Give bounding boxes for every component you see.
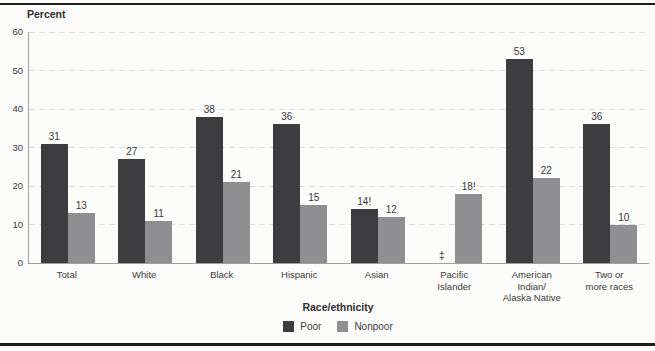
bar-slot-poor-asian: 14! xyxy=(351,196,378,263)
value-label-nonpoor-hispanic: 15 xyxy=(308,192,319,203)
y-tick-label-0: 0 xyxy=(0,257,23,268)
bar-nonpoor-hispanic xyxy=(300,205,327,263)
bar-pair-american-indian-alaska-native: 5322 xyxy=(506,46,560,263)
bar-nonpoor-two-or-more-races xyxy=(610,225,637,264)
legend-label-nonpoor: Nonpoor xyxy=(354,321,392,332)
legend-item-poor: Poor xyxy=(283,321,321,332)
bar-pair-white: 2711 xyxy=(118,146,172,263)
bar-slot-poor-hispanic: 36 xyxy=(273,111,300,263)
value-label-nonpoor-pacific-islander: 18! xyxy=(462,181,476,192)
bottom-rule xyxy=(0,343,655,346)
x-axis-title: Race/ethnicity xyxy=(28,301,648,313)
bar-pair-black: 3821 xyxy=(196,104,250,263)
plot-area: 311327113821361514!12‡18!53223610 xyxy=(28,32,649,264)
top-rule xyxy=(0,3,655,5)
category-label-two-or-more-races: Two ormore races xyxy=(571,269,649,304)
bar-group-white: 2711 xyxy=(107,32,185,263)
value-label-poor-black: 38 xyxy=(204,104,215,115)
bar-group-hispanic: 3615 xyxy=(262,32,340,263)
bar-slot-poor-white: 27 xyxy=(118,146,145,263)
y-tick-label-10: 10 xyxy=(0,219,23,230)
bar-pair-pacific-islander: ‡18! xyxy=(428,181,482,263)
legend-swatch-poor xyxy=(283,321,294,332)
bar-slot-poor-two-or-more-races: 36 xyxy=(583,111,610,263)
bar-slot-poor-american-indian-alaska-native: 53 xyxy=(506,46,533,263)
y-tick-label-30: 30 xyxy=(0,142,23,153)
bar-slot-nonpoor-hispanic: 15 xyxy=(300,192,327,263)
value-label-nonpoor-white: 11 xyxy=(154,208,164,219)
bar-nonpoor-asian xyxy=(378,217,405,263)
bar-pair-asian: 14!12 xyxy=(351,196,405,263)
value-label-nonpoor-two-or-more-races: 10 xyxy=(618,212,629,223)
bar-poor-black xyxy=(196,117,223,263)
bar-slot-nonpoor-white: 11 xyxy=(145,208,172,263)
legend-label-poor: Poor xyxy=(300,321,321,332)
bar-pair-total: 3113 xyxy=(41,131,95,263)
bar-nonpoor-white xyxy=(145,221,172,263)
bar-pair-two-or-more-races: 3610 xyxy=(583,111,637,263)
y-tick-label-20: 20 xyxy=(0,180,23,191)
bar-slot-poor-pacific-islander: ‡ xyxy=(428,250,455,263)
bar-nonpoor-pacific-islander xyxy=(455,194,482,263)
bar-group-asian: 14!12 xyxy=(339,32,417,263)
y-tick-label-50: 50 xyxy=(0,65,23,76)
category-label-total: Total xyxy=(28,269,106,304)
category-label-pacific-islander: PacificIslander xyxy=(416,269,494,304)
value-label-poor-total: 31 xyxy=(49,131,60,142)
value-label-poor-american-indian-alaska-native: 53 xyxy=(514,46,525,57)
bar-group-pacific-islander: ‡18! xyxy=(417,32,495,263)
legend-item-nonpoor: Nonpoor xyxy=(337,321,392,332)
category-label-asian: Asian xyxy=(338,269,416,304)
category-label-hispanic: Hispanic xyxy=(261,269,339,304)
bar-slot-nonpoor-pacific-islander: 18! xyxy=(455,181,482,263)
bar-group-total: 3113 xyxy=(29,32,107,263)
bar-slot-nonpoor-total: 13 xyxy=(68,200,95,263)
y-axis: 0102030405060 xyxy=(0,32,23,263)
y-tick-label-40: 40 xyxy=(0,103,23,114)
value-label-poor-asian: 14! xyxy=(357,196,371,207)
bar-poor-total xyxy=(41,144,68,263)
bar-slot-poor-total: 31 xyxy=(41,131,68,263)
bar-poor-white xyxy=(118,159,145,263)
y-tick-label-60: 60 xyxy=(0,26,23,37)
bar-poor-two-or-more-races xyxy=(583,124,610,263)
bar-poor-hispanic xyxy=(273,124,300,263)
bar-nonpoor-american-indian-alaska-native xyxy=(533,178,560,263)
legend: PoorNonpoor xyxy=(28,321,648,332)
bar-slot-nonpoor-american-indian-alaska-native: 22 xyxy=(533,165,560,263)
bar-slot-nonpoor-black: 21 xyxy=(223,169,250,263)
category-label-american-indian-alaska-native: AmericanIndian/Alaska Native xyxy=(493,269,571,304)
x-axis-labels: TotalWhiteBlackHispanicAsianPacificIslan… xyxy=(28,269,648,304)
bar-poor-american-indian-alaska-native xyxy=(506,59,533,263)
value-label-poor-white: 27 xyxy=(126,146,137,157)
value-label-poor-pacific-islander: ‡ xyxy=(439,250,445,261)
bar-nonpoor-total xyxy=(68,213,95,263)
bar-poor-asian xyxy=(351,209,378,263)
value-label-nonpoor-american-indian-alaska-native: 22 xyxy=(541,165,552,176)
value-label-poor-two-or-more-races: 36 xyxy=(591,111,602,122)
bar-slot-poor-black: 38 xyxy=(196,104,223,263)
value-label-nonpoor-asian: 12 xyxy=(386,204,397,215)
category-label-black: Black xyxy=(183,269,261,304)
bar-pair-hispanic: 3615 xyxy=(273,111,327,263)
bar-group-american-indian-alaska-native: 5322 xyxy=(494,32,572,263)
value-label-nonpoor-black: 21 xyxy=(231,169,242,180)
figure-container: Percent 0102030405060 311327113821361514… xyxy=(0,0,655,351)
bar-groups: 311327113821361514!12‡18!53223610 xyxy=(29,32,649,263)
y-axis-title: Percent xyxy=(27,8,66,20)
bar-group-two-or-more-races: 3610 xyxy=(572,32,650,263)
category-label-white: White xyxy=(106,269,184,304)
value-label-nonpoor-total: 13 xyxy=(76,200,87,211)
value-label-poor-hispanic: 36 xyxy=(281,111,292,122)
bar-slot-nonpoor-two-or-more-races: 10 xyxy=(610,212,637,264)
bar-nonpoor-black xyxy=(223,182,250,263)
bar-slot-nonpoor-asian: 12 xyxy=(378,204,405,263)
legend-swatch-nonpoor xyxy=(337,321,348,332)
bar-group-black: 3821 xyxy=(184,32,262,263)
